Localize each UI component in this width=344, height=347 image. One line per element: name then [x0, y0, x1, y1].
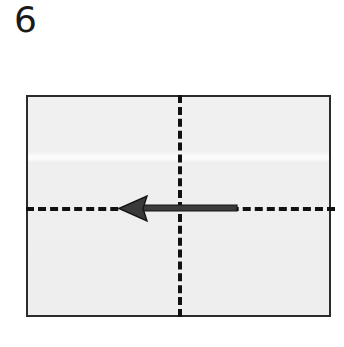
origami-step-diagram: 6: [0, 0, 344, 347]
fold-direction-arrow: [114, 190, 244, 226]
arrow-head: [119, 196, 147, 221]
step-number-label: 6: [14, 2, 37, 38]
fold-arrow-svg: [114, 190, 244, 226]
arrow-shaft: [142, 205, 237, 211]
